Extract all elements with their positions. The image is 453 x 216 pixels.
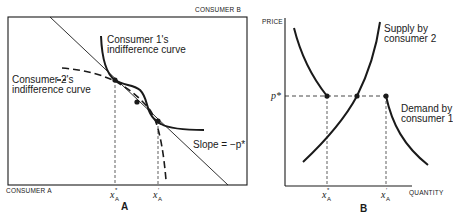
supply-label-line2: consumer 2 xyxy=(384,33,437,44)
svg-text:A: A xyxy=(386,196,390,202)
svg-text:A: A xyxy=(115,196,119,202)
panel-b: PRICE QUANTITY p* Supply by consumer 2 D… xyxy=(262,18,453,214)
consumer1-choice-point xyxy=(155,118,160,123)
panel-b-label: B xyxy=(360,203,367,214)
svg-text:A: A xyxy=(327,196,331,202)
demand-point-b xyxy=(383,93,388,98)
price-p-star-label: p* xyxy=(270,90,281,101)
consumer-b-label: CONSUMER B xyxy=(195,6,241,13)
panel-a: CONSUMER B CONSUMER A Consumer 1's indif… xyxy=(6,6,247,212)
svg-text:′: ′ xyxy=(158,187,160,193)
price-axis-label: PRICE xyxy=(262,18,283,25)
tick-x-star-a: x * A xyxy=(109,187,119,202)
slope-label: Slope = −p* xyxy=(193,139,245,150)
svg-text:*: * xyxy=(327,187,330,193)
panel-a-label: A xyxy=(121,201,128,212)
supply-curve xyxy=(303,22,380,162)
edgeworth-box-and-market-figure: CONSUMER B CONSUMER A Consumer 1's indif… xyxy=(0,0,453,216)
supply-point-b xyxy=(324,93,329,98)
svg-text:′: ′ xyxy=(386,187,388,193)
consumer2-curve-label-line2: indifference curve xyxy=(12,84,91,95)
tick-x-prime-a: x ′ A xyxy=(152,187,162,202)
demand-upper-branch xyxy=(294,28,327,96)
tick-x-prime-b: x ′ A xyxy=(380,187,390,202)
quantity-axis-label: QUANTITY xyxy=(409,189,444,197)
midpoint-marker xyxy=(134,99,139,104)
svg-text:A: A xyxy=(158,196,162,202)
consumer-a-label: CONSUMER A xyxy=(6,187,52,194)
endowment-point xyxy=(112,77,117,82)
svg-text:*: * xyxy=(115,187,118,193)
consumer1-curve-label-line2: indifference curve xyxy=(107,44,186,55)
demand-label-line2: consumer 1 xyxy=(401,113,453,124)
tick-x-star-b: x * A xyxy=(321,187,331,202)
equilibrium-point-b xyxy=(354,93,359,98)
